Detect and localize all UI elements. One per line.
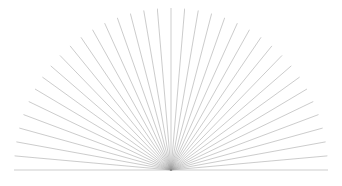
hub-convergence-point <box>170 169 172 171</box>
sunburst-svg <box>0 0 342 186</box>
sunburst-figure-canvas <box>0 0 342 186</box>
